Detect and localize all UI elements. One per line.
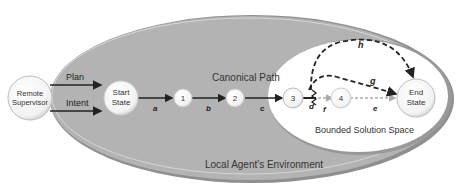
edge-g-label: g bbox=[369, 76, 376, 86]
svg-text:State: State bbox=[112, 98, 131, 107]
svg-text:1: 1 bbox=[181, 94, 186, 103]
edge-a-label: a bbox=[153, 104, 158, 113]
edge-c-label: c bbox=[260, 104, 265, 113]
edge-e-label: e bbox=[373, 104, 378, 113]
environment-label: Local Agent's Environment bbox=[205, 159, 323, 170]
svg-text:State: State bbox=[407, 98, 426, 107]
svg-text:Remote: Remote bbox=[17, 89, 43, 98]
canonical-path-label: Canonical Path bbox=[212, 72, 280, 83]
svg-text:4: 4 bbox=[339, 94, 344, 103]
node-4: 4 bbox=[331, 88, 351, 108]
node-2: 2 bbox=[226, 89, 244, 107]
edge-h-label: h bbox=[358, 40, 364, 50]
diagram: Canonical Path Bounded Solution Space Lo… bbox=[0, 0, 461, 193]
edge-b-label: b bbox=[206, 104, 211, 113]
intent-label: Intent bbox=[66, 98, 89, 108]
end-state-node: End State bbox=[397, 79, 435, 117]
svg-text:Start: Start bbox=[113, 88, 131, 97]
svg-text:2: 2 bbox=[233, 94, 238, 103]
svg-text:End: End bbox=[409, 88, 423, 97]
node-3: 3 bbox=[283, 88, 303, 108]
start-state-node: Start State bbox=[104, 81, 138, 115]
remote-supervisor-node: Remote Supervisor bbox=[8, 76, 52, 120]
bounded-space-label: Bounded Solution Space bbox=[315, 125, 414, 135]
svg-text:Supervisor: Supervisor bbox=[12, 98, 48, 107]
svg-text:3: 3 bbox=[291, 94, 296, 103]
plan-label: Plan bbox=[66, 72, 84, 82]
node-1: 1 bbox=[174, 89, 192, 107]
